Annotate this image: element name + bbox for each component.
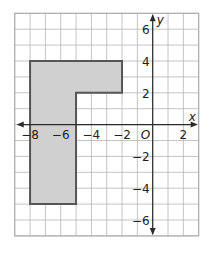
y-tick-label: −2	[132, 150, 150, 164]
x-tick-label: −4	[83, 128, 101, 142]
y-tick-label: 2	[142, 87, 150, 101]
y-tick-label: 4	[142, 55, 150, 69]
y-tick-label: 6	[142, 23, 150, 37]
x-axis-label: x	[188, 110, 197, 124]
origin-label: O	[141, 128, 150, 142]
y-axis-down-arrow-icon	[150, 228, 156, 235]
y-axis-up-arrow-icon	[150, 14, 156, 21]
x-tick-label: 2	[180, 128, 188, 142]
y-axis-label: y	[156, 13, 165, 27]
y-tick-label: −6	[132, 214, 150, 228]
l-shaped-polygon	[30, 61, 122, 204]
x-tick-label: −8	[21, 128, 39, 142]
x-tick-label: −2	[113, 128, 131, 142]
x-tick-label: −6	[52, 128, 70, 142]
coordinate-plane: −8−6−4−22642−2−4−6 x y O	[0, 0, 214, 253]
y-tick-label: −4	[132, 182, 150, 196]
